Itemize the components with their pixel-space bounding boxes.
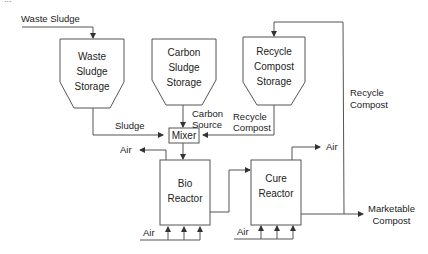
- storage-label-line: Waste: [60, 49, 124, 64]
- carbon-source-label: Carbon Source: [192, 108, 223, 130]
- storage-label-line: Sludge: [152, 60, 216, 75]
- label-line: Compost: [233, 122, 271, 133]
- bio-air-in-label: Air: [143, 227, 155, 239]
- bio-to-cure-line: [210, 170, 250, 212]
- bio-air-out-line: [140, 150, 166, 160]
- mixer-label: Mixer: [169, 128, 199, 143]
- label-line: Recycle: [233, 111, 271, 122]
- label-line: Recycle: [350, 87, 388, 99]
- cure-reactor-label: Cure Reactor: [251, 171, 301, 201]
- marketable-compost-label: Marketable Compost: [368, 203, 415, 227]
- sludge-flow-label: Sludge: [115, 120, 145, 132]
- storage-label-line: Storage: [152, 75, 216, 90]
- waste-sludge-input-line: [22, 27, 93, 38]
- label-line: Bio: [160, 176, 210, 191]
- label-line: Reactor: [160, 191, 210, 206]
- bio-reactor-label: Bio Reactor: [160, 176, 210, 206]
- label-line: Cure: [251, 171, 301, 186]
- storage-label-line: Carbon: [152, 45, 216, 60]
- storage-label-line: Storage: [243, 74, 305, 89]
- label-line: Compost: [368, 215, 415, 227]
- waste-sludge-storage: Waste Sludge Storage: [60, 49, 124, 94]
- carbon-sludge-storage: Carbon Sludge Storage: [152, 45, 216, 90]
- storage-label-line: Sludge: [60, 64, 124, 79]
- recycle-compost-loop-label: Recycle Compost: [350, 87, 388, 111]
- cropped-header-text: ...: [4, 0, 12, 5]
- bio-air-out-label: Air: [120, 144, 132, 156]
- label-line: Reactor: [251, 186, 301, 201]
- label-line: Compost: [350, 99, 388, 111]
- recycle-compost-storage: Recycle Compost Storage: [243, 44, 305, 89]
- recycle-compost-in-label: Recycle Compost: [233, 111, 271, 133]
- storage-label-line: Recycle: [243, 44, 305, 59]
- label-line: Carbon: [192, 108, 223, 119]
- storage-label-line: Compost: [243, 59, 305, 74]
- cure-air-out-label: Air: [326, 141, 338, 153]
- waste-sludge-input-label: Waste Sludge: [21, 13, 80, 25]
- label-line: Marketable: [368, 203, 415, 215]
- cure-air-out-line: [292, 147, 320, 160]
- cure-air-in-label: Air: [237, 226, 249, 238]
- storage-label-line: Storage: [60, 79, 124, 94]
